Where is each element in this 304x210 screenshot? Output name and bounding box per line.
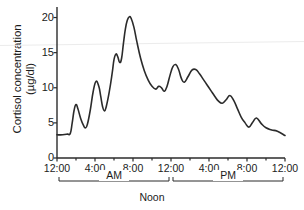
x-tick-label-6: 12:00: [268, 163, 302, 174]
background-artifact-line: [0, 42, 304, 46]
am-label: AM: [99, 170, 129, 181]
pm-label: PM: [213, 170, 243, 181]
noon-label: Noon: [0, 191, 304, 203]
cortisol-curve: [57, 16, 285, 135]
period-labels: AMPM: [0, 175, 304, 189]
x-tick-label-0: 12:00: [40, 163, 74, 174]
cortisol-circadian-chart: Cortisol concentration (µg/dl) 05101520 …: [0, 0, 304, 210]
x-tick-label-3: 12:00: [154, 163, 188, 174]
